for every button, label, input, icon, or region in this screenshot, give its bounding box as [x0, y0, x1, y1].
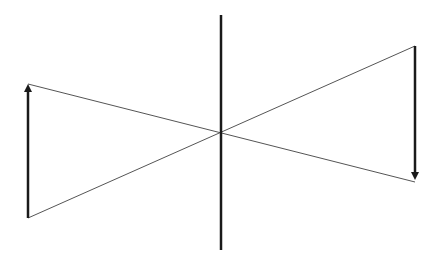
diagram-svg — [0, 0, 444, 261]
ray-diagram — [0, 0, 444, 261]
